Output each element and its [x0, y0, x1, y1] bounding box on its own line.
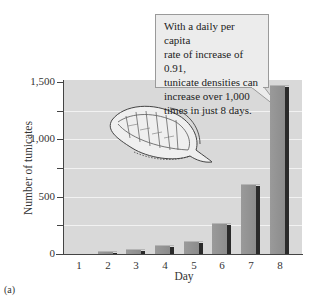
bar-shadow: [199, 243, 203, 254]
callout-line: With a daily per capita: [164, 19, 262, 47]
y-axis-line: [63, 80, 64, 255]
bar-day-6: [212, 224, 227, 254]
bar-day-7: [241, 185, 256, 254]
x-axis-title: Day: [164, 270, 204, 282]
x-tick-label: 3: [126, 259, 146, 271]
bar-shadow: [113, 253, 117, 254]
x-tick-label: 1: [69, 259, 89, 271]
y-tick: [57, 139, 63, 140]
bar-top-edge: [241, 184, 260, 185]
bar-top-edge: [155, 245, 174, 246]
bar-top-edge: [98, 251, 117, 252]
callout-line: tunicate densities can: [164, 75, 262, 89]
bar-shadow: [256, 186, 260, 254]
bar-top-edge: [270, 85, 289, 86]
bar-day-5: [184, 242, 199, 254]
gridline: [64, 225, 302, 226]
y-tick-label: 1,500: [5, 76, 55, 87]
annotation-callout: With a daily per capitarate of increase …: [155, 14, 269, 88]
x-tick-label: 7: [241, 259, 261, 271]
y-tick: [57, 111, 63, 112]
bar-top-edge: [126, 249, 145, 250]
bar-day-8: [270, 86, 285, 254]
bar-shadow: [285, 87, 289, 254]
x-axis-line: [56, 254, 303, 255]
y-tick-label: 0: [5, 248, 55, 259]
bar-shadow: [141, 251, 145, 254]
y-tick: [57, 197, 63, 198]
x-tick-label: 8: [270, 259, 290, 271]
y-tick: [57, 254, 63, 255]
x-tick-label: 2: [98, 259, 118, 271]
callout-line: increase over 1,000: [164, 89, 262, 103]
gridline: [64, 197, 302, 198]
bar-shadow: [227, 225, 231, 254]
y-axis-title: Number of tunicates: [22, 108, 34, 228]
bar-top-edge: [212, 223, 231, 224]
bar-day-4: [155, 246, 170, 254]
x-tick-label: 6: [212, 259, 232, 271]
bar-shadow: [170, 247, 174, 254]
y-tick: [57, 168, 63, 169]
callout-line: rate of increase of 0.91,: [164, 47, 262, 75]
y-tick: [57, 225, 63, 226]
bar-day-3: [126, 250, 141, 254]
figure-label: (a): [4, 284, 15, 295]
bar-day-2: [98, 252, 113, 254]
callout-line: times in just 8 days.: [164, 103, 262, 117]
y-tick: [57, 82, 63, 83]
bar-top-edge: [184, 241, 203, 242]
